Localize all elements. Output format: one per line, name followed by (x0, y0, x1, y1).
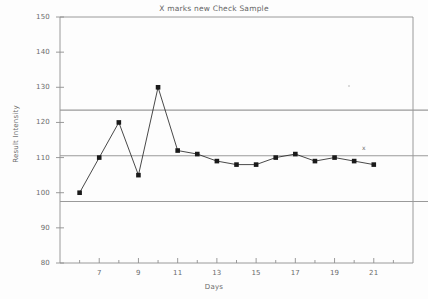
x-tick-label: 21 (364, 269, 384, 277)
x-tick-label: 13 (207, 269, 227, 277)
axis-tick-marks (56, 17, 393, 263)
y-tick-label: 100 (28, 189, 50, 197)
y-tick-label: 140 (28, 48, 50, 56)
y-tick-label: 80 (28, 259, 50, 267)
y-tick-label: 90 (28, 224, 50, 232)
y-tick-label: 130 (28, 83, 50, 91)
y-tick-label: 150 (28, 13, 50, 21)
y-tick-label: 110 (28, 154, 50, 162)
x-tick-label: 17 (285, 269, 305, 277)
y-tick-label: 120 (28, 118, 50, 126)
plot-frame (60, 17, 413, 263)
x-tick-label: 11 (168, 269, 188, 277)
reference-lines-group (60, 110, 428, 201)
x-tick-label: 19 (325, 269, 345, 277)
data-series-line (80, 87, 374, 192)
x-tick-label: 15 (246, 269, 266, 277)
chart-container: X marks new Check Sample Result Intensit… (0, 0, 428, 299)
data-series-markers (77, 85, 376, 195)
new-check-sample-x-marker: x (362, 144, 366, 151)
x-tick-label: 9 (128, 269, 148, 277)
x-tick-label: 7 (89, 269, 109, 277)
